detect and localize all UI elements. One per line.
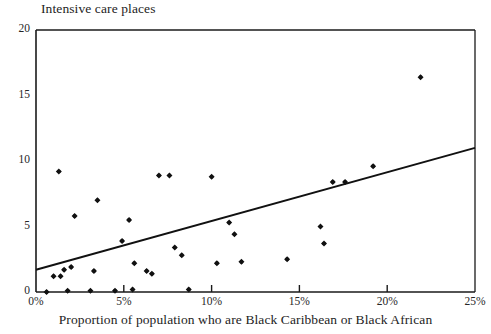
trend-line: [36, 148, 475, 270]
data-point-core: [89, 289, 92, 292]
x-axis-tick-label: 15%: [274, 295, 324, 307]
data-point-core: [419, 76, 422, 79]
data-point-core: [92, 270, 95, 273]
x-axis-tick-label: 10%: [187, 295, 237, 307]
trend-line-segment: [36, 148, 475, 270]
data-point-core: [322, 242, 325, 245]
x-axis-tick-label: 20%: [362, 295, 412, 307]
y-axis-tick-label: 10: [6, 153, 30, 165]
data-point-core: [228, 221, 231, 224]
data-point-core: [173, 246, 176, 249]
data-point-core: [70, 266, 73, 269]
data-point-core: [240, 260, 243, 263]
data-point-core: [233, 233, 236, 236]
data-point-core: [215, 262, 218, 265]
chart-figure: Intensive care places Proportion of popu…: [0, 0, 491, 334]
data-point-core: [133, 262, 136, 265]
data-point-core: [66, 289, 69, 292]
data-point-core: [131, 288, 134, 291]
data-point-core: [319, 225, 322, 228]
data-point-core: [331, 180, 334, 183]
data-point-core: [344, 180, 347, 183]
data-point-core: [168, 174, 171, 177]
axis-frame: [36, 30, 475, 292]
data-point-core: [57, 170, 60, 173]
data-point-core: [157, 174, 160, 177]
data-point-core: [372, 165, 375, 168]
data-point-core: [121, 239, 124, 242]
data-point-core: [145, 270, 148, 273]
data-point-core: [210, 175, 213, 178]
x-axis-tick-label: 0%: [11, 295, 61, 307]
data-point-core: [114, 289, 117, 292]
data-point-core: [187, 288, 190, 291]
data-point-core: [286, 258, 289, 261]
data-point-core: [52, 275, 55, 278]
y-axis-tick-label: 20: [6, 22, 30, 34]
data-point-core: [96, 199, 99, 202]
x-axis-tick-label: 25%: [450, 295, 491, 307]
data-point-core: [45, 291, 48, 294]
x-axis-ticks: [124, 285, 387, 292]
y-axis-tick-label: 15: [6, 88, 30, 100]
plot-area: [0, 0, 491, 334]
data-point-core: [63, 268, 66, 271]
data-point-series: [44, 74, 424, 295]
data-point-core: [59, 275, 62, 278]
data-point-core: [180, 254, 183, 257]
y-axis-tick-label: 5: [6, 219, 30, 231]
data-point-core: [73, 215, 76, 218]
x-axis-tick-label: 5%: [99, 295, 149, 307]
data-point-core: [128, 218, 131, 221]
data-point-core: [150, 272, 153, 275]
